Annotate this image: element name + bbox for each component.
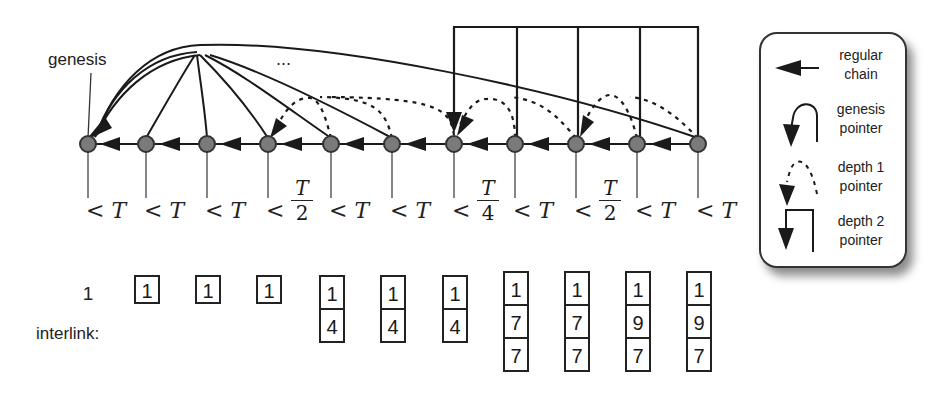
depth1-arrowhead <box>270 118 287 138</box>
block-index: 1 <box>73 283 103 305</box>
block-node-4[interactable] <box>260 136 276 152</box>
condition: < T <box>513 198 553 223</box>
interlink-vector: 197 <box>625 271 651 372</box>
block-node-5[interactable] <box>323 136 339 152</box>
interlink-entry: 7 <box>503 337 529 372</box>
block-node-11[interactable] <box>690 136 706 152</box>
square-arrow-icon <box>778 210 813 252</box>
fraction: T2 <box>291 177 313 224</box>
condition: < <box>266 198 284 223</box>
interlink-entry: 1 <box>625 271 651 306</box>
condition: < T <box>86 198 126 223</box>
interlink-vector: 1 <box>256 275 282 304</box>
legend: regular chain genesis pointer depth 1 po… <box>759 32 907 268</box>
interlink-entry: 1 <box>134 275 160 304</box>
interlink-entry: 7 <box>564 337 590 372</box>
fraction: T4 <box>477 177 499 224</box>
interlink-entry: 7 <box>686 337 712 372</box>
interlink-vector: 14 <box>319 275 345 343</box>
interlink-entry: 1 <box>442 275 468 310</box>
interlink-entry: 7 <box>564 304 590 339</box>
depth2-pointers <box>446 27 698 138</box>
fraction: T2 <box>599 177 621 224</box>
interlink-entry: 4 <box>442 308 468 343</box>
condition: < T <box>390 198 430 223</box>
interlink-entry: 1 <box>256 275 282 304</box>
block-node-3[interactable] <box>199 136 215 152</box>
legend-genesis-pointer: genesis pointer <box>821 100 901 138</box>
block-node-9[interactable] <box>568 136 584 152</box>
curved-arrow-icon <box>783 104 817 147</box>
condition: < <box>452 198 470 223</box>
ellipsis-text: ... <box>276 49 291 69</box>
block-node-7[interactable] <box>446 136 462 152</box>
interlink-vector: 14 <box>442 275 468 343</box>
block-node-10[interactable] <box>629 136 645 152</box>
depth1-arrowhead <box>580 115 594 137</box>
dashed-curved-arrow-icon <box>779 162 817 206</box>
interlink-entry: 1 <box>319 275 345 310</box>
interlink-vector: 177 <box>503 271 529 372</box>
block-node-8[interactable] <box>507 136 523 152</box>
left-arrow-icon <box>775 60 819 76</box>
interlink-entry: 1 <box>503 271 529 306</box>
block-node-2[interactable] <box>138 136 154 152</box>
interlink-vector: 197 <box>686 271 712 372</box>
interlink-entry: 1 <box>564 271 590 306</box>
interlink-vector: 1 <box>195 275 221 304</box>
condition: < <box>574 198 592 223</box>
block-node-1[interactable] <box>80 136 96 152</box>
block-node-6[interactable] <box>384 136 400 152</box>
condition: < T <box>329 198 369 223</box>
interlink-entry: 1 <box>380 275 406 310</box>
legend-depth1-pointer: depth 1 pointer <box>821 158 901 196</box>
interlink-entry: 1 <box>686 271 712 306</box>
condition: < T <box>696 198 736 223</box>
interlink-entry: 4 <box>380 308 406 343</box>
interlink-vector: 177 <box>564 271 590 372</box>
interlink-entry: 9 <box>686 304 712 339</box>
interlink-label: interlink: <box>36 324 99 344</box>
interlink-entry: 4 <box>319 308 345 343</box>
legend-depth2-pointer: depth 2 pointer <box>821 212 901 250</box>
condition: < T <box>635 198 675 223</box>
condition: < T <box>144 198 184 223</box>
interlink-entry: 7 <box>503 304 529 339</box>
interlink-entry: 7 <box>625 337 651 372</box>
genesis-pointers <box>86 45 698 140</box>
interlink-entry: 9 <box>625 304 651 339</box>
legend-regular-chain: regular chain <box>821 46 901 84</box>
genesis-label: genesis <box>48 50 107 70</box>
interlink-vector: 1 <box>134 275 160 304</box>
condition: < T <box>205 198 245 223</box>
interlink-vector: 14 <box>380 275 406 343</box>
interlink-entry: 1 <box>195 275 221 304</box>
genesis-leader-line <box>88 73 91 138</box>
